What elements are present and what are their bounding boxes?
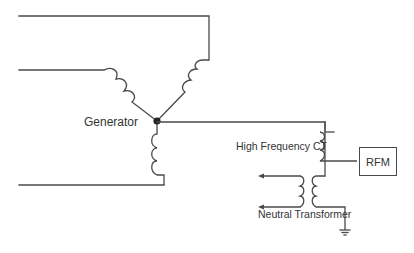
neutral-lead <box>157 122 325 130</box>
ct-label: High Frequency CT <box>236 141 327 152</box>
neutral-junction-dot <box>153 117 160 124</box>
neutral-transformer-secondary <box>300 176 304 207</box>
rfm-label: RFM <box>366 156 390 168</box>
neutral-transformer-primary <box>312 176 345 230</box>
arrow-left-icon <box>258 174 264 179</box>
rfm-box: RFM <box>359 147 397 176</box>
generator-coil-bottom <box>152 121 164 185</box>
generator-coil-right <box>157 60 209 121</box>
phase-lead-top <box>19 16 209 60</box>
schematic-canvas <box>0 0 414 253</box>
neutral-transformer-label: Neutral Transformer <box>258 209 351 220</box>
ground-icon <box>340 230 350 235</box>
generator-label: Generator <box>84 116 138 128</box>
generator-coil-left <box>104 68 157 121</box>
